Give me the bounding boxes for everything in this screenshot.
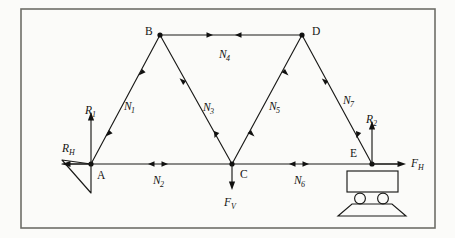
force-FV-head <box>229 182 235 191</box>
force-label-FH: F H <box>410 157 425 172</box>
svg-text:R: R <box>61 142 69 154</box>
svg-text:6: 6 <box>301 180 305 189</box>
svg-text:2: 2 <box>160 180 164 189</box>
svg-text:1: 1 <box>131 106 135 115</box>
node-label-D: D <box>312 25 320 37</box>
member-N2-arrow-left <box>148 161 155 167</box>
svg-text:V: V <box>231 202 237 211</box>
svg-text:5: 5 <box>276 106 280 115</box>
member-N7-arrow-upper <box>322 78 328 85</box>
member-N6-arrow-left <box>289 161 296 167</box>
force-label-RH: R H <box>61 142 76 157</box>
svg-text:R: R <box>365 113 373 125</box>
roller-wheel-right <box>378 193 389 204</box>
member-N7-line <box>302 35 372 164</box>
force-FH-head <box>398 161 407 167</box>
node-D-dot <box>299 32 304 37</box>
force-labels: R 1 R H F V R 2 F H <box>61 104 425 211</box>
roller-wheel-left <box>355 193 366 204</box>
member-label-N5: N 5 <box>268 100 280 115</box>
node-labels: A B C D E <box>97 25 357 181</box>
member-N4-arrow-left <box>207 32 214 38</box>
svg-text:4: 4 <box>226 54 230 63</box>
svg-text:1: 1 <box>92 110 96 119</box>
truss-diagram-svg: A B C D E N 1 N 2 N 3 N 4 <box>0 0 455 238</box>
node-label-E: E <box>350 147 357 159</box>
member-N5-arrow-lower <box>248 130 255 136</box>
member-force-arrows <box>106 32 362 167</box>
member-label-N1: N 1 <box>123 100 135 115</box>
svg-text:7: 7 <box>350 100 355 109</box>
node-label-C: C <box>240 168 248 180</box>
member-N4-arrow-right <box>235 32 242 38</box>
svg-text:R: R <box>84 104 92 116</box>
figure-canvas: A B C D E N 1 N 2 N 3 N 4 <box>0 0 455 238</box>
force-label-FV: F V <box>223 196 237 211</box>
svg-text:H: H <box>417 163 425 172</box>
svg-text:H: H <box>68 148 76 157</box>
member-label-N6: N 6 <box>293 174 305 189</box>
node-label-B: B <box>145 25 153 37</box>
member-label-N4: N 4 <box>218 48 230 63</box>
member-N7-arrow-lower <box>356 131 361 138</box>
member-label-N2: N 2 <box>152 174 164 189</box>
member-N5-line <box>232 35 302 164</box>
roller-support-E <box>338 171 406 216</box>
svg-text:3: 3 <box>209 107 214 116</box>
member-label-N7: N 7 <box>342 94 355 109</box>
roller-body <box>347 171 398 192</box>
member-N1-arrow-lower <box>106 130 113 136</box>
member-N2-arrow-right <box>162 161 169 167</box>
member-N6-arrow-right <box>303 161 310 167</box>
node-label-A: A <box>97 169 106 181</box>
svg-text:2: 2 <box>373 119 377 128</box>
roller-base-trapezoid <box>338 204 406 216</box>
node-B-dot <box>157 32 162 37</box>
